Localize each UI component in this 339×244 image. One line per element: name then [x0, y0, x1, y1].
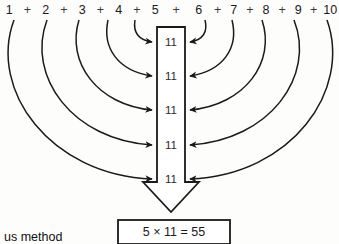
pair-sum-label-4: 11: [154, 140, 188, 152]
pair-sum-label-3: 11: [154, 105, 188, 117]
pair-sum-label-1: 11: [154, 37, 188, 49]
arc-from-3: [76, 20, 152, 110]
arc-from-6: [190, 20, 206, 42]
diagram-canvas: 1 + 2 + 3 + 4 + 5 + 6 + 7 + 8 + 9 + 10: [0, 0, 339, 244]
arc-from-8: [190, 20, 265, 110]
arc-from-9: [190, 20, 299, 145]
arc-from-2: [42, 20, 152, 145]
result-expression: 5 × 11 = 55: [118, 226, 230, 239]
arc-from-5: [135, 20, 152, 42]
left-pairing-arcs: [8, 20, 152, 179]
pair-sum-label-2: 11: [154, 71, 188, 83]
arc-from-10: [190, 20, 333, 179]
arc-from-4: [107, 20, 152, 76]
arc-from-1: [8, 20, 152, 179]
pair-sum-label-5: 11: [154, 174, 188, 186]
arc-from-7: [190, 20, 234, 76]
right-pairing-arcs: [190, 20, 333, 179]
figure-caption: us method: [4, 231, 62, 244]
